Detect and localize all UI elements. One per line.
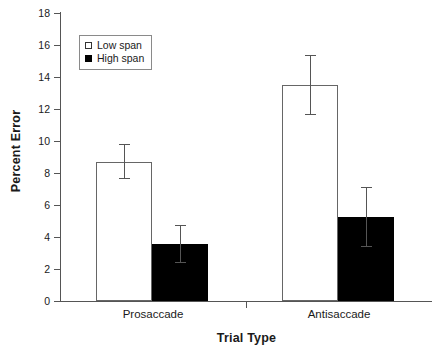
y-tick-label: 14: [0, 71, 50, 83]
y-tick-mark: [54, 237, 60, 238]
error-bar: [302, 55, 318, 116]
y-tick-mark: [54, 77, 60, 78]
open-square-icon: [85, 42, 92, 49]
error-bar-stem: [310, 55, 311, 116]
error-bar-cap-bottom: [175, 262, 186, 263]
error-bar: [358, 187, 374, 248]
legend-item-label: High span: [97, 52, 144, 65]
bar-chart-figure: Percent Error 024681012141618 Prosaccade…: [0, 0, 433, 356]
y-tick-mark: [54, 13, 60, 14]
y-tick-label: 0: [0, 295, 50, 307]
y-tick-label: 12: [0, 103, 50, 115]
y-tick-mark: [54, 301, 60, 302]
x-tick-mark: [246, 302, 247, 308]
error-bar: [172, 225, 188, 263]
error-bar-cap-bottom: [361, 246, 372, 247]
y-tick-label: 18: [0, 7, 50, 19]
y-tick-label: 4: [0, 231, 50, 243]
legend-item-high-span: High span: [85, 52, 144, 65]
filled-square-icon: [85, 55, 92, 62]
y-tick-mark: [54, 173, 60, 174]
error-bar: [116, 144, 132, 179]
legend: Low span High span: [79, 35, 152, 70]
bar-prosaccade-low-span: [96, 162, 152, 301]
error-bar-cap-top: [361, 187, 372, 188]
error-bar-stem: [180, 225, 181, 263]
error-bar-cap-bottom: [305, 114, 316, 115]
error-bar-stem: [366, 187, 367, 248]
x-axis-title: Trial Type: [60, 331, 433, 345]
y-tick-mark: [54, 269, 60, 270]
bar-antisaccade-low-span: [282, 85, 338, 301]
y-tick-label: 2: [0, 263, 50, 275]
y-tick-mark: [54, 45, 60, 46]
legend-item-low-span: Low span: [85, 39, 144, 52]
error-bar-cap-top: [175, 225, 186, 226]
y-tick-mark: [54, 205, 60, 206]
y-tick-mark: [54, 109, 60, 110]
error-bar-cap-top: [119, 144, 130, 145]
error-bar-cap-bottom: [119, 178, 130, 179]
y-tick-mark: [54, 141, 60, 142]
y-tick-label: 8: [0, 167, 50, 179]
x-tick-label-antisaccade: Antisaccade: [308, 308, 371, 320]
x-tick-label-prosaccade: Prosaccade: [123, 308, 184, 320]
y-axis-line: [60, 12, 61, 302]
error-bar-cap-top: [305, 55, 316, 56]
y-tick-label: 10: [0, 135, 50, 147]
error-bar-stem: [124, 144, 125, 179]
y-tick-label: 6: [0, 199, 50, 211]
legend-item-label: Low span: [97, 39, 142, 52]
y-tick-label: 16: [0, 39, 50, 51]
